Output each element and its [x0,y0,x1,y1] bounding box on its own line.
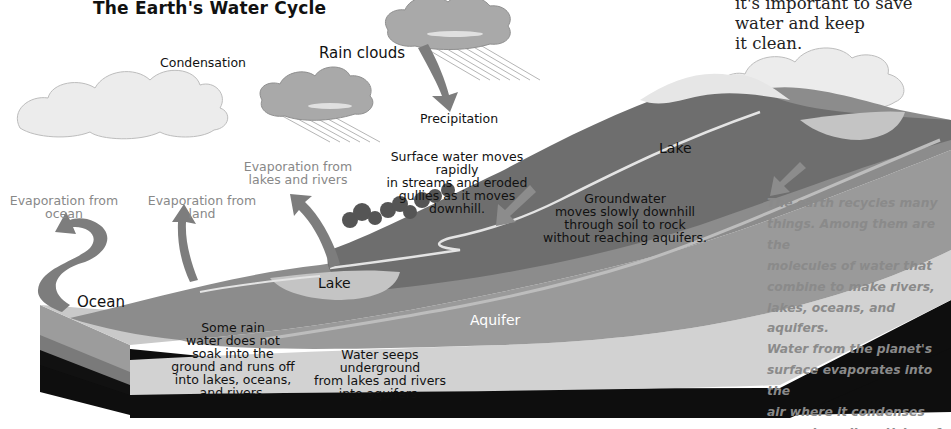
label-condensation: Condensation [160,56,246,69]
label-precipitation: Precipitation [420,112,498,125]
label-groundwater: Groundwater moves slowly downhill throug… [540,192,710,244]
rain-cloud-small-icon [260,67,380,142]
label-evap-lakes: Evaporation from lakes and rivers [238,160,358,186]
label-surface-water: Surface water moves rapidly in streams a… [372,150,542,215]
label-ocean: Ocean [77,293,125,311]
top-paragraph: it's important to save water and keep it… [735,0,951,54]
label-aquifer: Aquifer [470,312,520,328]
precipitation-arrow-icon [418,44,458,112]
side-paragraph: The earth recycles many things. Among th… [767,193,951,429]
label-evap-land: Evaporation from land [146,194,258,220]
rain-cloud-large-icon [385,0,540,80]
label-seeps: Water seeps underground from lakes and r… [310,348,450,400]
label-lake-high: Lake [659,140,692,156]
top-paragraph-line: it clean. [735,34,951,54]
label-evap-ocean: Evaporation from ocean [8,194,120,220]
condensation-cloud-icon [17,70,227,138]
top-paragraph-line: it's important to save water and keep [735,0,951,34]
label-rain-clouds: Rain clouds [319,44,405,62]
diagram-title: The Earth's Water Cycle [93,0,326,18]
label-lake-low: Lake [318,275,351,291]
label-runoff: Some rain water does not soak into the g… [168,321,298,399]
evap-lakes-arrow-icon [290,194,340,268]
